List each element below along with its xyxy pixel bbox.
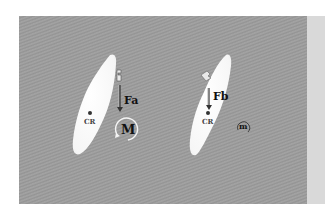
center-of-resistance-label: CR (202, 117, 214, 126)
bracket-icon (117, 70, 121, 81)
tooth-diagram: Fa CR M Fb CR m (0, 0, 325, 220)
moment-label-m: M (121, 122, 135, 137)
left-tooth (73, 54, 116, 154)
force-label-fa: Fa (124, 94, 138, 107)
center-of-resistance-dot (88, 111, 92, 115)
center-of-resistance-dot (206, 111, 210, 115)
force-label-fb: Fb (213, 90, 229, 103)
right-tooth-group: Fb CR m (190, 55, 250, 156)
force-arrow-down-icon (117, 85, 123, 112)
right-tooth (190, 55, 232, 156)
left-tooth-group: Fa CR M (73, 54, 139, 154)
center-of-resistance-label: CR (84, 117, 96, 126)
bracket-icon (201, 71, 211, 81)
moment-label-m-small: m (239, 121, 248, 131)
